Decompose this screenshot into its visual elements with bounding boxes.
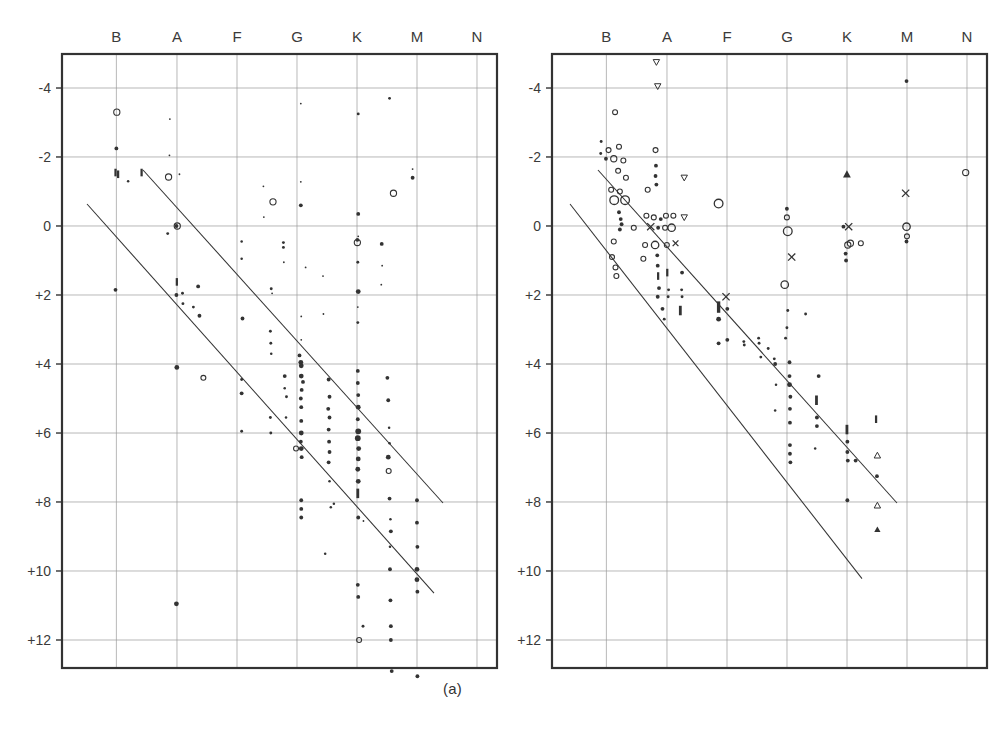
dot-marker xyxy=(299,419,303,423)
small-dot-marker xyxy=(263,185,265,187)
panel-b-plot: BAFGKMN-4-20+2+4+6+8+10+12 xyxy=(502,0,1004,730)
dot-marker xyxy=(174,365,179,370)
small-dot-marker xyxy=(285,416,288,419)
dot-marker xyxy=(659,217,663,221)
dot-marker xyxy=(380,242,384,246)
dot-marker xyxy=(356,417,360,421)
dot-marker xyxy=(725,307,729,311)
dot-marker xyxy=(241,317,245,321)
dot-marker xyxy=(356,261,359,264)
dot-marker xyxy=(817,374,821,378)
open-circle-marker xyxy=(611,156,617,162)
dot-marker xyxy=(788,443,792,447)
dot-marker xyxy=(661,307,665,311)
dot-marker xyxy=(166,232,169,235)
dot-marker xyxy=(356,595,360,599)
data-points xyxy=(599,60,969,533)
open-circle-marker xyxy=(623,175,628,180)
dot-marker xyxy=(415,590,419,594)
y-tick-label: -2 xyxy=(39,149,52,165)
x-tick-label-M: M xyxy=(411,28,424,45)
open-circle-marker xyxy=(270,199,276,205)
dot-marker xyxy=(846,459,850,463)
dot-marker xyxy=(328,395,332,399)
dot-marker xyxy=(198,314,202,318)
small-dot-marker xyxy=(271,292,273,294)
small-dot-marker xyxy=(389,518,392,521)
small-dot-marker xyxy=(775,383,778,386)
dot-marker xyxy=(654,183,658,187)
dot-marker xyxy=(192,306,195,309)
plot-frame xyxy=(62,54,497,668)
dot-marker xyxy=(299,363,304,368)
large-open-circle-marker xyxy=(714,199,723,208)
y-tick-label: +10 xyxy=(517,563,541,579)
down-triangle-marker xyxy=(655,84,661,90)
small-dot-marker xyxy=(412,168,414,170)
cross-marker xyxy=(902,190,909,197)
dot-marker xyxy=(362,625,365,628)
dot-marker xyxy=(842,225,846,229)
y-tick-label: +2 xyxy=(35,287,51,303)
dot-marker xyxy=(388,97,391,100)
dot-marker xyxy=(680,271,684,275)
x-tick-label-M: M xyxy=(901,28,914,45)
dot-marker xyxy=(788,407,792,411)
small-dot-marker xyxy=(240,258,243,261)
small-dot-marker xyxy=(300,103,302,105)
dot-marker xyxy=(356,583,360,587)
dot-marker xyxy=(656,295,660,299)
y-tick-label: +6 xyxy=(525,425,541,441)
small-dot-marker xyxy=(169,118,171,120)
dot-marker xyxy=(620,222,624,226)
band-line xyxy=(598,170,897,503)
open-circle-marker xyxy=(651,215,656,220)
x-tick-label-F: F xyxy=(232,28,241,45)
dot-marker xyxy=(759,356,762,359)
x-tick-label-B: B xyxy=(111,28,121,45)
dot-marker xyxy=(356,321,359,324)
dot-marker xyxy=(415,498,419,502)
dot-marker xyxy=(388,497,392,501)
small-dot-marker xyxy=(814,447,817,450)
open-triangle-marker xyxy=(874,502,880,508)
dot-marker xyxy=(196,284,200,288)
small-dot-marker xyxy=(300,181,302,183)
dot-marker xyxy=(327,440,331,444)
x-tick-label-K: K xyxy=(842,28,852,45)
large-open-circle-marker xyxy=(610,196,619,205)
gridlines xyxy=(62,54,497,668)
dot-marker xyxy=(788,460,792,464)
dot-marker xyxy=(299,507,303,511)
dot-marker xyxy=(299,516,303,520)
y-tick-label: 0 xyxy=(533,218,541,234)
dot-marker xyxy=(301,380,305,384)
open-circle-marker xyxy=(613,265,618,270)
tick-labels: BAFGKMN-4-20+2+4+6+8+10+12 xyxy=(27,28,482,648)
small-dot-marker xyxy=(169,154,171,156)
down-triangle-marker xyxy=(653,60,659,66)
dot-marker xyxy=(181,302,184,305)
dot-marker xyxy=(181,292,184,295)
small-dot-marker xyxy=(127,180,130,183)
open-circle-marker xyxy=(613,110,618,115)
dot-marker xyxy=(804,313,807,316)
small-dot-marker xyxy=(388,427,391,430)
dot-marker xyxy=(905,240,909,244)
dot-marker xyxy=(655,253,659,257)
y-tick-label: +12 xyxy=(27,632,51,648)
dot-marker xyxy=(788,421,792,425)
data-points xyxy=(114,97,420,678)
open-circle-marker xyxy=(616,168,621,173)
dot-marker xyxy=(663,318,666,321)
dot-marker xyxy=(299,431,304,436)
dot-marker xyxy=(815,424,819,428)
bar-marker xyxy=(117,170,119,178)
y-tick-label: -2 xyxy=(529,149,542,165)
y-tick-label: +6 xyxy=(35,425,51,441)
open-circle-marker xyxy=(201,375,206,380)
dot-marker xyxy=(298,353,302,357)
dot-marker xyxy=(327,428,331,432)
open-circle-marker xyxy=(645,187,650,192)
dot-marker xyxy=(389,529,393,533)
